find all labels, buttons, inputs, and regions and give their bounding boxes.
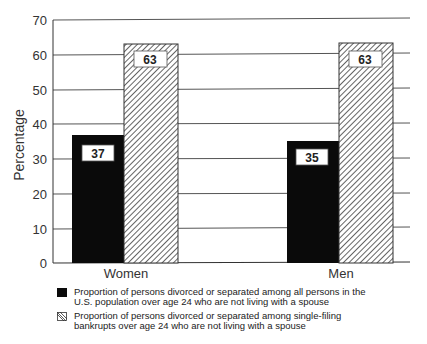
legend-text: U.S. population over age 24 who are not …: [74, 297, 394, 307]
y-tick: 60: [33, 48, 47, 63]
y-tick: 40: [33, 117, 47, 132]
data-label: 35: [305, 151, 319, 165]
y-tick-labels: 0 10 20 30 40 50 60 70: [33, 13, 47, 271]
data-label: 63: [143, 53, 157, 67]
solid-swatch-icon: [57, 288, 67, 297]
bar-women-bankrupts: [124, 44, 178, 263]
x-category-label: Men: [328, 266, 353, 281]
data-label: 37: [91, 147, 105, 161]
x-category-label: Women: [104, 266, 149, 281]
hatch-swatch-icon: [57, 312, 67, 321]
y-tick: 70: [33, 13, 47, 28]
y-tick: 0: [40, 256, 47, 271]
y-axis-label: Percentage: [11, 109, 27, 181]
data-label: 63: [358, 53, 372, 67]
legend-text: bankrupts over age 24 who are not living…: [74, 321, 394, 331]
y-tick: 20: [33, 187, 47, 202]
y-tick: 10: [33, 222, 47, 237]
y-tick: 30: [33, 152, 47, 167]
bar-men-bankrupts: [339, 43, 393, 263]
y-tick: 50: [33, 83, 47, 98]
